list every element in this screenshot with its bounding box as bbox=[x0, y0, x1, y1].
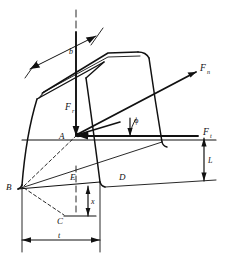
label-fn-subscript: n bbox=[207, 68, 210, 75]
point-a-marker bbox=[76, 133, 81, 138]
gear-tooth-force-diagram: F n F t F r ϕ A B C D E b L x t bbox=[0, 0, 231, 261]
label-point-e: E bbox=[69, 172, 76, 182]
label-dimension-b: b bbox=[69, 47, 73, 56]
diagram-canvas: F n F t F r ϕ A B C D E b L x t bbox=[0, 0, 231, 261]
label-fn-symbol: F bbox=[199, 63, 206, 73]
label-fr-symbol: F bbox=[64, 102, 71, 112]
label-point-b: B bbox=[6, 182, 12, 192]
label-dimension-l: L bbox=[207, 156, 213, 165]
label-point-c: C bbox=[57, 216, 64, 226]
label-ft-symbol: F bbox=[202, 127, 209, 137]
label-dimension-x: x bbox=[90, 197, 95, 206]
label-pressure-angle: ϕ bbox=[134, 115, 139, 125]
label-ft-subscript: t bbox=[210, 132, 212, 139]
label-point-a: A bbox=[58, 131, 65, 141]
label-point-d: D bbox=[118, 172, 126, 182]
diagram-background bbox=[0, 0, 231, 261]
